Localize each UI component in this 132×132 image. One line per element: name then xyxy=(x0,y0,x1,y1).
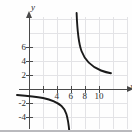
y-tick-label: 6 xyxy=(16,43,26,52)
curve-upper-branch xyxy=(77,13,111,73)
graph-figure: ) 6 4 2 xyxy=(0,0,132,132)
function-curve xyxy=(29,17,132,131)
y-tick-label: 2 xyxy=(16,71,26,80)
y-tick-label: -2 xyxy=(13,99,26,108)
figure-bottom-edge xyxy=(0,130,132,132)
y-tick-label: 4 xyxy=(16,57,26,66)
plot-area: 6 4 2 -2 -4 4 6 8 10 y x xyxy=(29,17,127,129)
y-tick-label: -4 xyxy=(13,113,26,122)
y-axis-label: y xyxy=(31,2,35,12)
